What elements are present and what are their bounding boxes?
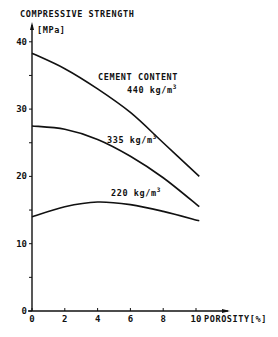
x-tick-label: 8 xyxy=(160,314,165,324)
y-axis-unit: [MPa] xyxy=(37,25,66,35)
series-label-220: 220 kg/m3 xyxy=(111,186,161,198)
y-tick-label: 20 xyxy=(16,171,27,181)
x-tick-label: 2 xyxy=(62,314,67,324)
series-label-440: 440 kg/m3 xyxy=(127,83,177,95)
legend-title: CEMENT CONTENT xyxy=(98,72,178,82)
x-tick-label: 10 xyxy=(191,314,202,324)
y-tick-label: 40 xyxy=(16,37,27,47)
x-tick-label: 0 xyxy=(29,314,34,324)
curve-220 xyxy=(32,202,199,221)
x-tick-label: 4 xyxy=(95,314,101,324)
y-tick-label: 30 xyxy=(16,104,27,114)
axes: 010203040 0246810 xyxy=(16,22,230,324)
y-tick-label: 0 xyxy=(22,306,27,316)
y-tick-label: 10 xyxy=(16,239,27,249)
x-axis-label: POROSITY[%] xyxy=(204,314,267,324)
chart-title: COMPRESSIVE STRENGTH xyxy=(20,9,134,19)
x-tick-label: 6 xyxy=(128,314,133,324)
series-label-335: 335 kg/m3 xyxy=(107,133,157,145)
chart: COMPRESSIVE STRENGTH [MPa] 010203040 024… xyxy=(0,0,278,337)
